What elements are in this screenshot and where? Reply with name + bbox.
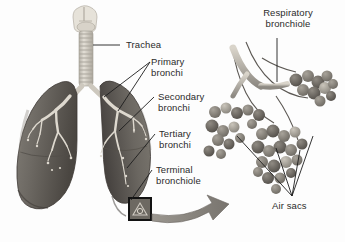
magnify-arrow (152, 195, 229, 223)
label-air-sacs: Air sacs (272, 201, 307, 212)
magnification-source-box (129, 198, 151, 220)
label-tertiary-bronchi: Tertiary bronchi (159, 129, 191, 150)
alveolar-magnified-view (204, 42, 339, 194)
respiratory-bronchiole-tube (233, 48, 287, 96)
label-respiratory-bronchiole: Respiratory bronchiole (248, 8, 328, 29)
respiratory-system-figure: Trachea Primary bronchi Secondary bronch… (0, 0, 345, 242)
larynx (73, 6, 97, 32)
label-secondary-bronchi: Secondary bronchi (158, 92, 204, 113)
label-terminal-bronchiole: Terminal bronchiole (156, 165, 201, 186)
label-trachea: Trachea (126, 40, 161, 51)
label-primary-bronchi: Primary bronchi (151, 57, 184, 78)
alveolar-cluster-upper (290, 70, 339, 107)
